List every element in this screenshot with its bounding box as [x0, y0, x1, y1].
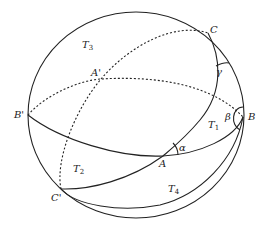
point-label-c-prime: C' [51, 193, 61, 203]
angle-beta-arc [234, 107, 243, 130]
point-label-b: B [248, 112, 255, 122]
region-label-t3: T3 [82, 40, 93, 52]
spherical-triangle-diagram: C A' B' B A C' T3 T1 T2 T4 α β γ [0, 0, 266, 231]
region-label-t4: T4 [168, 184, 179, 196]
angle-label-gamma: γ [216, 67, 222, 77]
angle-label-beta: β [225, 112, 231, 122]
point-label-c: C [210, 25, 218, 35]
point-label-b-prime: B' [14, 110, 24, 120]
point-label-a: A [159, 159, 166, 169]
region-label-t1: T1 [208, 120, 219, 132]
sphere-outline [28, 12, 244, 218]
point-label-a-prime: A' [91, 68, 101, 78]
great-circle-cc-front [61, 33, 218, 189]
angle-label-alpha: α [179, 143, 186, 153]
region-label-t2: T2 [73, 164, 84, 176]
great-circle-bb-back [28, 78, 243, 117]
